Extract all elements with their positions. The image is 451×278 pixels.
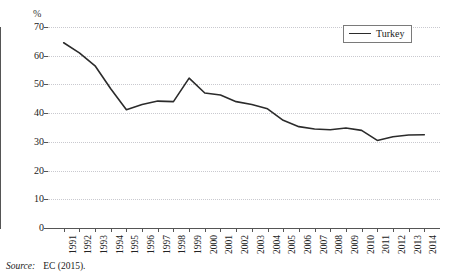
x-tick-label-1997: 1997: [162, 235, 172, 254]
y-tick-label: 10: [0, 194, 44, 204]
x-tick-mark: [299, 228, 300, 232]
x-tick-label-2013: 2013: [413, 235, 423, 254]
x-tick-mark: [126, 228, 127, 232]
x-tick-mark: [362, 228, 363, 232]
y-tick-label: 70: [0, 22, 44, 32]
x-tick-mark: [95, 228, 96, 232]
x-tick-mark: [393, 228, 394, 232]
legend-line-swatch: [349, 33, 371, 34]
x-tick-mark: [236, 228, 237, 232]
x-tick-mark: [409, 228, 410, 232]
x-tick-label-1998: 1998: [177, 235, 187, 254]
x-tick-label-2008: 2008: [334, 235, 344, 254]
x-tick-label-2002: 2002: [240, 235, 250, 254]
x-tick-mark: [142, 228, 143, 232]
chart-legend: Turkey: [343, 25, 412, 43]
y-tick-label: 0: [0, 223, 44, 233]
x-tick-label-2007: 2007: [319, 235, 329, 254]
y-axis-unit-label: %: [33, 8, 41, 19]
x-tick-label-1995: 1995: [130, 235, 140, 254]
x-tick-label-2001: 2001: [224, 235, 234, 254]
x-tick-mark: [346, 228, 347, 232]
x-tick-mark: [220, 228, 221, 232]
x-tick-label-2014: 2014: [428, 235, 438, 254]
y-tick-mark: [44, 228, 48, 229]
plot-area: [48, 27, 440, 228]
x-tick-mark: [79, 228, 80, 232]
x-tick-label-1993: 1993: [99, 235, 109, 254]
x-tick-label-2000: 2000: [209, 235, 219, 254]
x-tick-label-2004: 2004: [272, 235, 282, 254]
x-tick-label-1994: 1994: [115, 235, 125, 254]
x-tick-label-2005: 2005: [287, 235, 297, 254]
source-label: Source:: [6, 261, 35, 271]
y-tick-label: 20: [0, 166, 44, 176]
x-tick-label-2012: 2012: [397, 235, 407, 254]
figure-container: % 010203040506070 1991199219931994199519…: [0, 0, 451, 278]
x-tick-label-1999: 1999: [193, 235, 203, 254]
x-tick-label-1996: 1996: [146, 235, 156, 254]
x-tick-mark: [315, 228, 316, 232]
x-tick-mark: [64, 228, 65, 232]
y-tick-label: 30: [0, 137, 44, 147]
y-tick-label: 50: [0, 79, 44, 89]
x-tick-mark: [189, 228, 190, 232]
x-tick-label-2009: 2009: [350, 235, 360, 254]
x-tick-label-2010: 2010: [366, 235, 376, 254]
x-tick-mark: [158, 228, 159, 232]
x-tick-mark: [205, 228, 206, 232]
source-note: Source:EC (2015).: [6, 261, 85, 272]
x-tick-label-1991: 1991: [68, 235, 78, 254]
y-tick-label: 60: [0, 51, 44, 61]
y-tick-label: 40: [0, 108, 44, 118]
x-tick-mark: [283, 228, 284, 232]
x-tick-mark: [111, 228, 112, 232]
x-tick-label-2003: 2003: [256, 235, 266, 254]
x-tick-mark: [173, 228, 174, 232]
x-tick-label-1992: 1992: [83, 235, 93, 254]
x-tick-mark: [252, 228, 253, 232]
x-tick-mark: [377, 228, 378, 232]
x-tick-label-2011: 2011: [381, 235, 391, 254]
source-text: EC (2015).: [43, 261, 85, 271]
x-tick-label-2006: 2006: [303, 235, 313, 254]
series-polyline: [64, 43, 425, 141]
series-turkey-line: [48, 27, 440, 228]
x-tick-mark: [268, 228, 269, 232]
legend-label-turkey: Turkey: [376, 28, 405, 39]
x-tick-mark: [424, 228, 425, 232]
x-tick-mark: [330, 228, 331, 232]
x-axis-line: [48, 228, 440, 229]
